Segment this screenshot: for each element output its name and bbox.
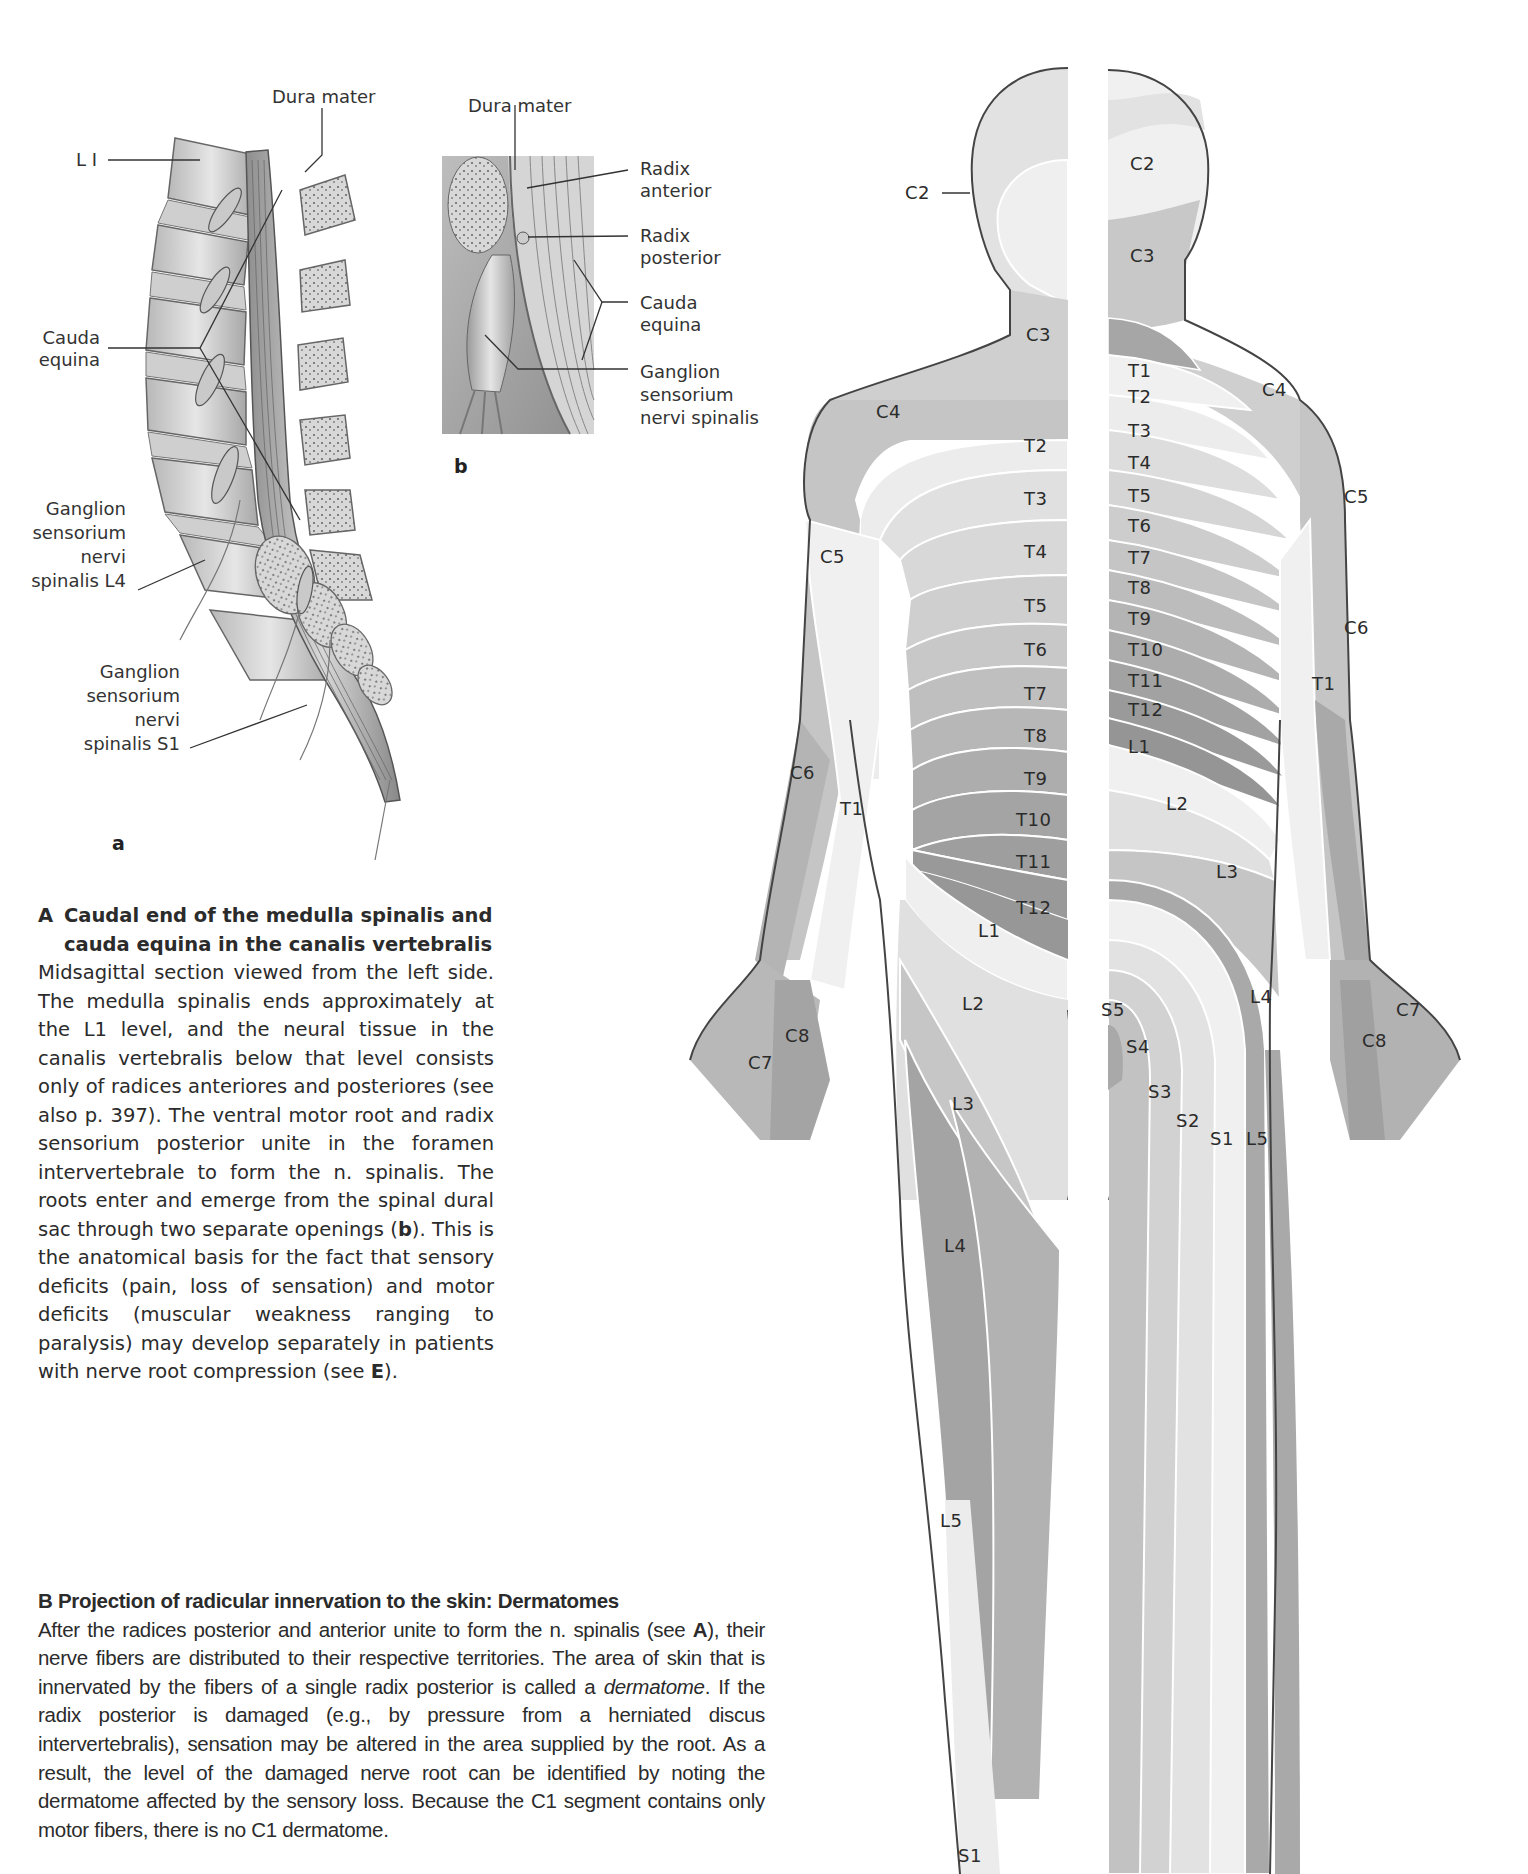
label-back-c4: C4	[1262, 379, 1287, 400]
midline-gap	[1068, 60, 1108, 1874]
figure-a-panel-b: Dura mater Radix anterior Radix posterio…	[430, 80, 770, 480]
label-cauda-equina-b: Cauda equina	[640, 292, 701, 336]
label-dura-mater-a: Dura mater	[272, 86, 376, 108]
label-front-c4: C4	[876, 401, 901, 422]
label-front-c8: C8	[785, 1025, 810, 1046]
label-line: nervi spinalis	[640, 407, 759, 428]
label-front-c2: C2	[905, 182, 930, 203]
label-front-c3: C3	[1026, 324, 1051, 345]
label-front-l2: L2	[962, 993, 984, 1014]
label-back-t6: T6	[1127, 515, 1151, 536]
label-back-t11: T11	[1127, 670, 1163, 691]
label-front-c7: C7	[748, 1052, 773, 1073]
label-line: equina	[640, 314, 701, 335]
caption-a-title: ACaudal end of the medulla spinalis and …	[38, 902, 494, 959]
label-back-t9: T9	[1127, 608, 1151, 629]
caption-a-body-part: Midsagittal section viewed from the left…	[38, 961, 494, 1241]
label-line: Cauda	[640, 292, 697, 313]
back-view	[1108, 70, 1460, 1874]
caption-b-body-part: . If the radix posterior is damaged (e.g…	[38, 1675, 765, 1841]
label-front-l1: L1	[978, 920, 1000, 941]
caption-a-body: Midsagittal section viewed from the left…	[38, 959, 494, 1387]
label-cauda-equina-a: Cauda equina	[20, 327, 100, 371]
label-front-c5: C5	[820, 546, 845, 567]
front-labels: C2 C3 C4 C5 C6 T1 C8 C7 T2 T3 T4 T5 T6 T…	[748, 182, 1051, 1866]
label-radix-anterior: Radix anterior	[640, 158, 711, 202]
label-line: spinalis L4	[31, 570, 126, 591]
label-back-l5: L5	[1246, 1128, 1268, 1149]
label-line: sensorium	[32, 522, 126, 543]
label-line: Cauda	[43, 327, 100, 348]
label-front-t11: T11	[1015, 851, 1051, 872]
label-front-t2: T2	[1023, 435, 1047, 456]
caption-b-ref-a: A	[693, 1618, 708, 1641]
label-dura-mater-b: Dura mater	[468, 95, 572, 117]
label-front-t7: T7	[1023, 683, 1047, 704]
label-front-c6: C6	[790, 762, 815, 783]
label-back-c7: C7	[1396, 999, 1421, 1020]
label-line: nervi	[134, 709, 180, 730]
label-back-t4: T4	[1127, 452, 1151, 473]
label-back-t1-arm: T1	[1311, 673, 1335, 694]
label-front-t9: T9	[1023, 768, 1047, 789]
label-back-c3: C3	[1130, 245, 1155, 266]
label-back-s2: S2	[1176, 1110, 1200, 1131]
caption-a-body-part: ). This is the anatomical basis for the …	[38, 1218, 494, 1384]
back-labels: C2 C3 T1 T2 C4 T3 T4 T5 C5 T6 T7 T8 T9 C…	[1101, 153, 1421, 1149]
label-radix-posterior: Radix posterior	[640, 225, 721, 269]
caption-a-title-line1: Caudal end of the medulla spinalis and	[64, 904, 492, 927]
label-front-t10: T10	[1015, 809, 1051, 830]
caption-b-title: B Projection of radicular innervation to…	[38, 1587, 765, 1616]
label-back-c8: C8	[1362, 1030, 1387, 1051]
label-line: posterior	[640, 247, 721, 268]
label-line: anterior	[640, 180, 711, 201]
label-front-l5: L5	[940, 1510, 962, 1531]
caption-a-ref-e: E	[371, 1360, 384, 1383]
label-line: spinalis S1	[84, 733, 180, 754]
label-front-l3: L3	[952, 1093, 974, 1114]
label-line: Radix	[640, 225, 690, 246]
caption-a-ref-b: b	[398, 1218, 412, 1241]
label-back-c5: C5	[1344, 486, 1369, 507]
caption-a-title-line2: cauda equina in the canalis vertebralis	[38, 931, 494, 960]
label-back-t3: T3	[1127, 420, 1151, 441]
label-front-l4: L4	[944, 1235, 966, 1256]
label-ganglion-b: Ganglion sensorium nervi spinalis	[640, 360, 759, 429]
caption-a-letter: A	[38, 902, 64, 931]
label-back-t10: T10	[1127, 639, 1163, 660]
label-line: Radix	[640, 158, 690, 179]
label-front-t4: T4	[1023, 541, 1047, 562]
label-back-l4: L4	[1250, 986, 1272, 1007]
caption-b-body: After the radices posterior and anterior…	[38, 1616, 765, 1845]
label-front-t12: T12	[1015, 897, 1051, 918]
label-line: sensorium	[86, 685, 180, 706]
label-back-s4: S4	[1126, 1036, 1150, 1057]
panel-letter-a: a	[112, 832, 125, 854]
label-back-l2: L2	[1166, 793, 1188, 814]
label-back-s1: S1	[1210, 1128, 1234, 1149]
label-back-l3: L3	[1216, 861, 1238, 882]
spinous-processes	[298, 175, 372, 600]
caption-a: ACaudal end of the medulla spinalis and …	[38, 902, 494, 1387]
caption-b: B Projection of radicular innervation to…	[38, 1587, 765, 1844]
label-back-t7: T7	[1127, 547, 1151, 568]
label-back-t2: T2	[1127, 386, 1151, 407]
label-back-t1: T1	[1127, 360, 1151, 381]
label-front-t1-arm: T1	[839, 798, 863, 819]
label-back-c6: C6	[1344, 617, 1369, 638]
label-back-t12: T12	[1127, 699, 1163, 720]
label-back-t8: T8	[1127, 577, 1151, 598]
label-front-s1: S1	[958, 1845, 982, 1866]
label-line: Ganglion	[640, 361, 720, 382]
label-back-l1: L1	[1128, 736, 1150, 757]
label-line: nervi	[80, 546, 126, 567]
label-front-t8: T8	[1023, 725, 1047, 746]
label-back-c2: C2	[1130, 153, 1155, 174]
figure-a-panel-a: Dura mater L I Cauda equina Ganglion sen…	[0, 80, 420, 860]
body-outlines	[690, 68, 1460, 1874]
label-l1: L I	[76, 149, 97, 171]
caption-a-body-part: ).	[384, 1360, 398, 1383]
label-ganglion-l4: Ganglion sensorium nervi spinalis L4	[10, 497, 126, 593]
label-back-s5: S5	[1101, 999, 1125, 1020]
label-front-t6: T6	[1023, 639, 1047, 660]
